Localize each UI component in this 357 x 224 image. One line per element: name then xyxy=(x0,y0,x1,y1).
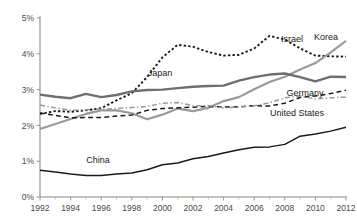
x-tick-label: 2010 xyxy=(306,203,325,213)
x-tick-label: 1996 xyxy=(92,203,111,213)
series-label-japan: Japan xyxy=(148,68,173,78)
x-tick-label: 2002 xyxy=(184,203,203,213)
y-axis-ticks: 0%1%2%3%4%5% xyxy=(22,13,40,202)
x-tick-label: 2006 xyxy=(245,203,264,213)
y-tick-label: 4% xyxy=(22,49,35,59)
series-line-china xyxy=(40,127,346,175)
x-tick-label: 1992 xyxy=(31,203,50,213)
y-tick-label: 1% xyxy=(22,156,35,166)
series-label-israel: Israel xyxy=(281,34,303,44)
series-label-germany: Germany xyxy=(286,88,324,98)
x-axis-ticks: 1992199419961998200020022004200620082010… xyxy=(31,197,356,213)
rd-spending-line-chart: 0%1%2%3%4%5% 199219941996199820002002200… xyxy=(0,0,357,224)
series-label-china: China xyxy=(86,155,110,165)
x-tick-label: 1994 xyxy=(61,203,80,213)
y-tick-label: 3% xyxy=(22,85,35,95)
chart-svg: 0%1%2%3%4%5% 199219941996199820002002200… xyxy=(0,0,357,224)
x-tick-label: 2008 xyxy=(275,203,294,213)
y-tick-label: 2% xyxy=(22,121,35,131)
x-tick-label: 2000 xyxy=(153,203,172,213)
x-tick-label: 2004 xyxy=(214,203,233,213)
series-label-united-states: United States xyxy=(270,108,325,118)
y-tick-label: 0% xyxy=(22,192,35,202)
x-tick-label: 1998 xyxy=(122,203,141,213)
x-tick-label: 2012 xyxy=(337,203,356,213)
series-label-korea: Korea xyxy=(314,32,338,42)
series-line-israel xyxy=(40,36,346,114)
y-tick-label: 5% xyxy=(22,13,35,23)
